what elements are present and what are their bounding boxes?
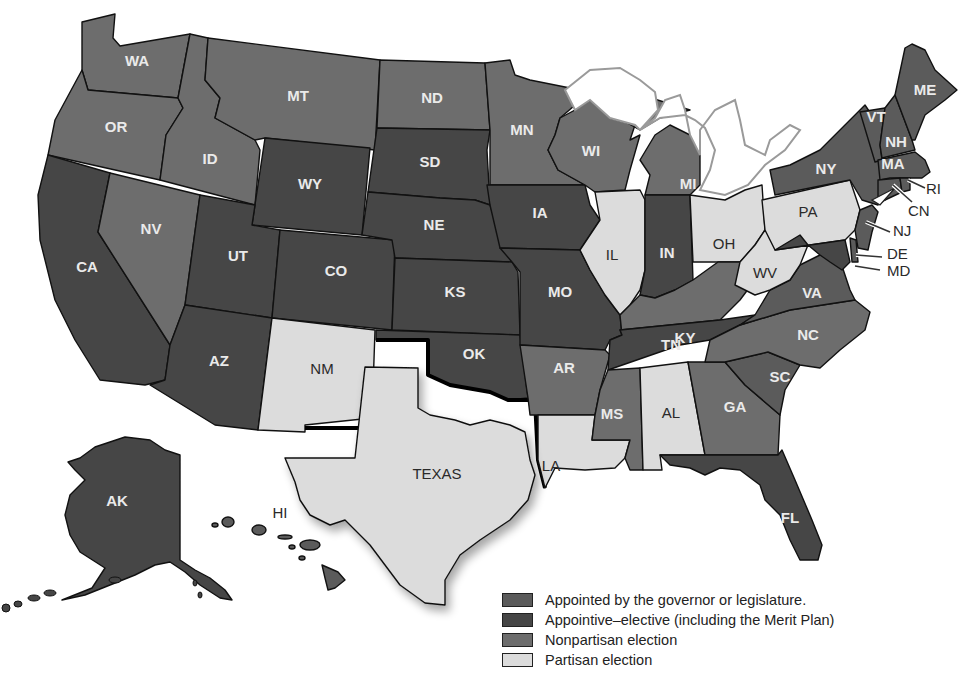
label-OK: OK (463, 345, 486, 362)
legend-label: Nonpartisan election (545, 632, 677, 648)
label-NH: NH (885, 133, 907, 150)
state-CO[interactable] (272, 230, 395, 330)
label-NC: NC (797, 326, 819, 343)
legend-swatch-nonpartisan (502, 633, 533, 647)
legend-swatch-appointed (502, 593, 533, 607)
label-CN: CN (908, 202, 930, 219)
label-WV: WV (753, 264, 777, 281)
label-MA: MA (881, 155, 904, 172)
label-AR: AR (553, 359, 575, 376)
label-MO: MO (548, 283, 572, 300)
label-LA: LA (542, 457, 560, 474)
label-MS: MS (601, 405, 624, 422)
label-GA: GA (724, 398, 747, 415)
label-NJ: NJ (893, 222, 911, 239)
label-MT: MT (287, 87, 309, 104)
label-WA: WA (125, 52, 149, 69)
label-OH: OH (713, 235, 736, 252)
label-IA: IA (533, 204, 548, 221)
label-MN: MN (510, 121, 533, 138)
label-VT: VT (866, 108, 885, 125)
label-CO: CO (325, 262, 348, 279)
legend-swatch-appointive-elective (502, 613, 533, 627)
label-NV: NV (141, 220, 162, 237)
label-UT: UT (228, 247, 248, 264)
label-RI: RI (926, 180, 941, 197)
legend-item-appointive-elective: Appointive–elective (including the Merit… (502, 610, 834, 630)
label-AK: AK (106, 492, 128, 509)
legend-item-nonpartisan: Nonpartisan election (502, 630, 834, 650)
label-DE: DE (887, 245, 908, 262)
label-WI: WI (582, 142, 600, 159)
label-FL: FL (781, 509, 799, 526)
label-ND: ND (421, 89, 443, 106)
label-AL: AL (662, 404, 680, 421)
label-NM: NM (310, 360, 333, 377)
label-TN: TN (661, 336, 681, 353)
label-PA: PA (799, 203, 818, 220)
legend-label: Appointed by the governor or legislature… (545, 592, 806, 608)
label-NY: NY (816, 160, 837, 177)
label-ID: ID (203, 150, 218, 167)
legend-item-partisan: Partisan election (502, 650, 834, 670)
label-SC: SC (770, 368, 791, 385)
label-TX: TEXAS (412, 465, 461, 482)
label-IL: IL (606, 246, 619, 263)
legend-label: Partisan election (545, 652, 652, 668)
label-WY: WY (298, 175, 322, 192)
label-AZ: AZ (209, 352, 229, 369)
us-map: WA OR CA NV ID MT WY UT AZ CO NM ND SD N… (0, 0, 980, 686)
label-NE: NE (424, 216, 445, 233)
label-HI: HI (273, 504, 288, 521)
legend-swatch-partisan (502, 653, 533, 667)
label-VA: VA (802, 284, 822, 301)
label-ME: ME (914, 81, 937, 98)
label-KS: KS (445, 283, 466, 300)
label-OR: OR (105, 118, 128, 135)
state-HI[interactable] (212, 517, 345, 590)
label-MI: MI (680, 175, 697, 192)
state-AK[interactable] (62, 437, 232, 600)
label-IN: IN (660, 244, 675, 261)
state-FL[interactable] (660, 450, 822, 560)
state-DE[interactable] (850, 238, 858, 262)
legend-label: Appointive–elective (including the Merit… (545, 612, 834, 628)
label-MD: MD (887, 262, 910, 279)
legend-item-appointed: Appointed by the governor or legislature… (502, 590, 834, 610)
label-CA: CA (76, 258, 98, 275)
label-SD: SD (420, 153, 441, 170)
legend: Appointed by the governor or legislature… (502, 590, 834, 670)
